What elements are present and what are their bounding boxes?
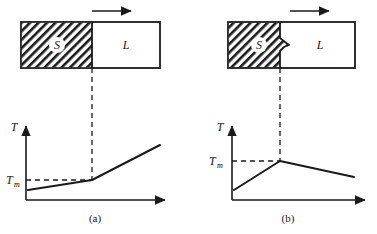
y-axis-label-a: T — [11, 120, 19, 134]
melting-temp-label-a-text: T — [6, 173, 14, 187]
liquid-label-b: L — [316, 38, 324, 52]
panel-a: S L T T m (a) — [6, 11, 165, 225]
temperature-profile-b — [234, 161, 354, 190]
panel-caption-b: (b) — [282, 212, 295, 225]
panel-caption-a: (a) — [89, 212, 102, 225]
melting-temp-label-b-text: T — [209, 154, 217, 168]
solid-label-a: S — [49, 37, 65, 53]
melting-temp-subscript-a: m — [14, 180, 20, 189]
solid-label-a-text: S — [54, 38, 60, 52]
liquid-label-a: L — [122, 38, 130, 52]
solid-label-b-text: S — [256, 38, 262, 52]
solid-label-b: S — [251, 37, 267, 53]
y-axis-label-b: T — [217, 120, 225, 134]
figure-canvas: S L T T m (a) — [0, 0, 377, 234]
melting-temp-subscript-b: m — [217, 161, 223, 170]
panel-b: S L T T m (b) — [209, 11, 365, 225]
temperature-profile-a — [28, 145, 160, 190]
melting-temp-label-b: T m — [209, 154, 223, 170]
melting-temp-label-a: T m — [6, 173, 20, 189]
figure-root: S L T T m (a) — [0, 0, 377, 234]
